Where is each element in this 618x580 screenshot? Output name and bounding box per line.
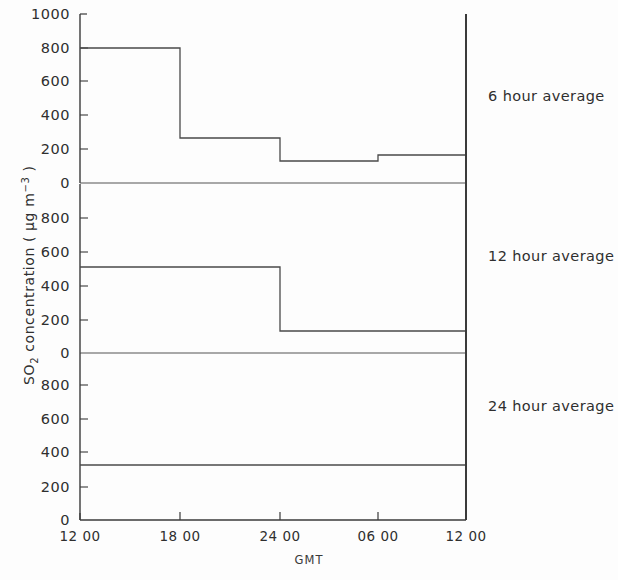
y-axis-title-so: SO: [21, 364, 37, 385]
ytick-bot-0: 0: [24, 512, 70, 528]
xtick-label-1200-start: 12 00: [45, 528, 115, 544]
x-axis-title: GMT: [0, 553, 618, 567]
y-axis-title-units: concentration ( µg m: [21, 193, 37, 357]
y-axis-title-exponent: −3: [20, 177, 31, 193]
y-axis-title-subscript: 2: [29, 357, 40, 364]
ytick-top-1000: 1000: [24, 6, 70, 22]
panel-12h-axis: [80, 184, 466, 353]
xtick-label-0600: 06 00: [343, 528, 413, 544]
xtick-label-1800: 18 00: [145, 528, 215, 544]
chart-canvas: [0, 0, 618, 580]
y-axis-title-closeparen: ): [21, 166, 37, 177]
panel-24h-axis: [80, 353, 88, 520]
y-axis-title: SO2 concentration ( µg m−3 ): [20, 45, 40, 505]
xtick-label-2400: 24 00: [245, 528, 315, 544]
x-axis: [80, 512, 466, 520]
so2-concentration-step-chart: 1000 800 600 400 200 0 800 600 400 200 0…: [0, 0, 618, 580]
panel-6h-trace: [80, 48, 466, 161]
panel-12h-trace: [80, 267, 466, 331]
panel-label-6-hour-average: 6 hour average: [488, 88, 605, 104]
xtick-label-1200-end: 12 00: [431, 528, 501, 544]
panel-6h-axis: [80, 14, 466, 183]
panel-label-12-hour-average: 12 hour average: [488, 248, 614, 264]
panel-label-24-hour-average: 24 hour average: [488, 398, 614, 414]
